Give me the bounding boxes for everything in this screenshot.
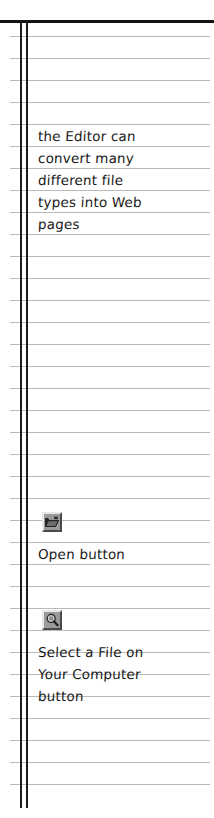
handwriting-layer: the Editor can convert many different fi…	[0, 0, 214, 818]
note-paragraph-line: pages	[38, 218, 211, 232]
select-file-button-label: Your Computer	[38, 668, 211, 682]
select-file-button-label: button	[38, 690, 211, 704]
notebook-page: the Editor can convert many different fi…	[0, 0, 214, 818]
open-folder-icon[interactable]	[42, 512, 62, 532]
open-button-label: Open button	[38, 548, 211, 562]
note-paragraph-line: convert many	[38, 152, 211, 166]
note-paragraph-line: the Editor can	[38, 130, 211, 144]
note-paragraph-line: types into Web	[38, 196, 211, 210]
magnifier-browse-icon[interactable]	[42, 610, 62, 630]
select-file-button-label: Select a File on	[38, 646, 211, 660]
note-paragraph-line: different file	[38, 174, 211, 188]
